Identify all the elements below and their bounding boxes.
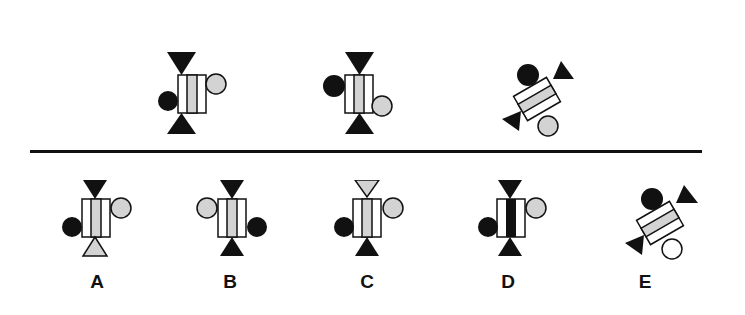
option-e-figure[interactable] xyxy=(620,183,710,268)
option-d-figure[interactable] xyxy=(465,180,555,260)
circle-gray-icon xyxy=(372,96,392,116)
circle-gray-icon xyxy=(538,116,558,136)
triangle-icon xyxy=(553,61,574,79)
option-label-b: B xyxy=(215,271,245,293)
triangle-up-icon xyxy=(345,113,374,134)
divider-line xyxy=(30,150,702,153)
triangle-down-icon xyxy=(345,52,374,75)
option-label-d: D xyxy=(493,271,523,293)
circle-black-icon xyxy=(323,75,345,97)
option-label-a: A xyxy=(82,271,112,293)
option-b-figure[interactable] xyxy=(190,180,280,260)
circle-black-icon xyxy=(158,91,178,111)
sequence-figure-1 xyxy=(150,45,240,140)
circle-gray-icon xyxy=(206,74,226,94)
option-label-c: C xyxy=(352,271,382,293)
circle-black-icon xyxy=(517,64,539,86)
triangle-icon xyxy=(502,111,521,131)
sequence-figure-2 xyxy=(310,45,400,140)
option-c-figure[interactable] xyxy=(325,180,415,260)
triangle-down-icon xyxy=(167,52,196,75)
option-label-e: E xyxy=(630,271,660,293)
triangle-up-icon xyxy=(167,113,196,134)
option-a-figure[interactable] xyxy=(55,180,145,260)
sequence-figure-3 xyxy=(495,55,585,140)
